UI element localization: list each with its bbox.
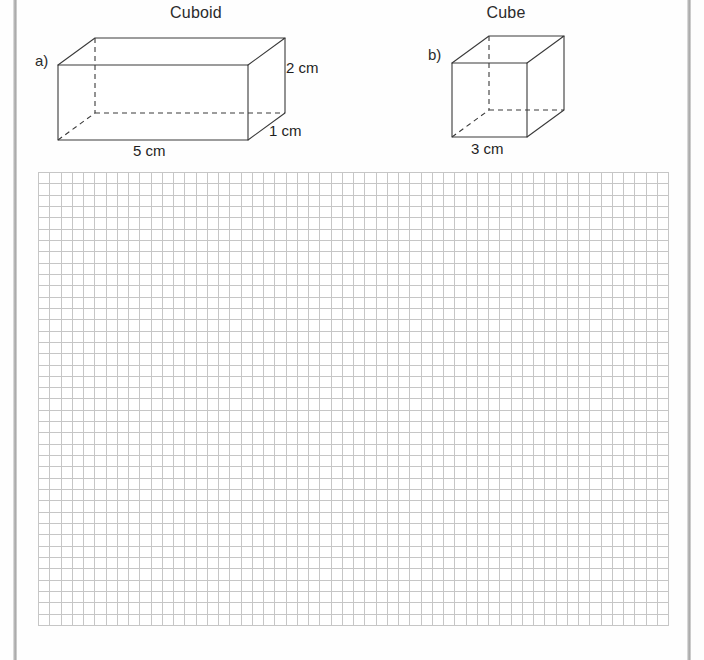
cuboid-front-face	[58, 65, 248, 140]
dimension-label-cuboid-depth: 1 cm	[269, 122, 302, 139]
squared-working-area[interactable]	[38, 172, 669, 626]
cuboid-top-face	[58, 38, 285, 65]
cuboid-figure	[58, 38, 285, 140]
worksheet-page: Cuboid Cube a) b)	[0, 0, 704, 660]
dimension-label-cuboid-width: 5 cm	[133, 142, 166, 159]
dimension-label-cube-width: 3 cm	[471, 140, 504, 157]
dimension-label-cuboid-height: 2 cm	[286, 59, 319, 76]
solids-diagram-layer	[0, 0, 704, 170]
cube-figure	[452, 36, 564, 137]
